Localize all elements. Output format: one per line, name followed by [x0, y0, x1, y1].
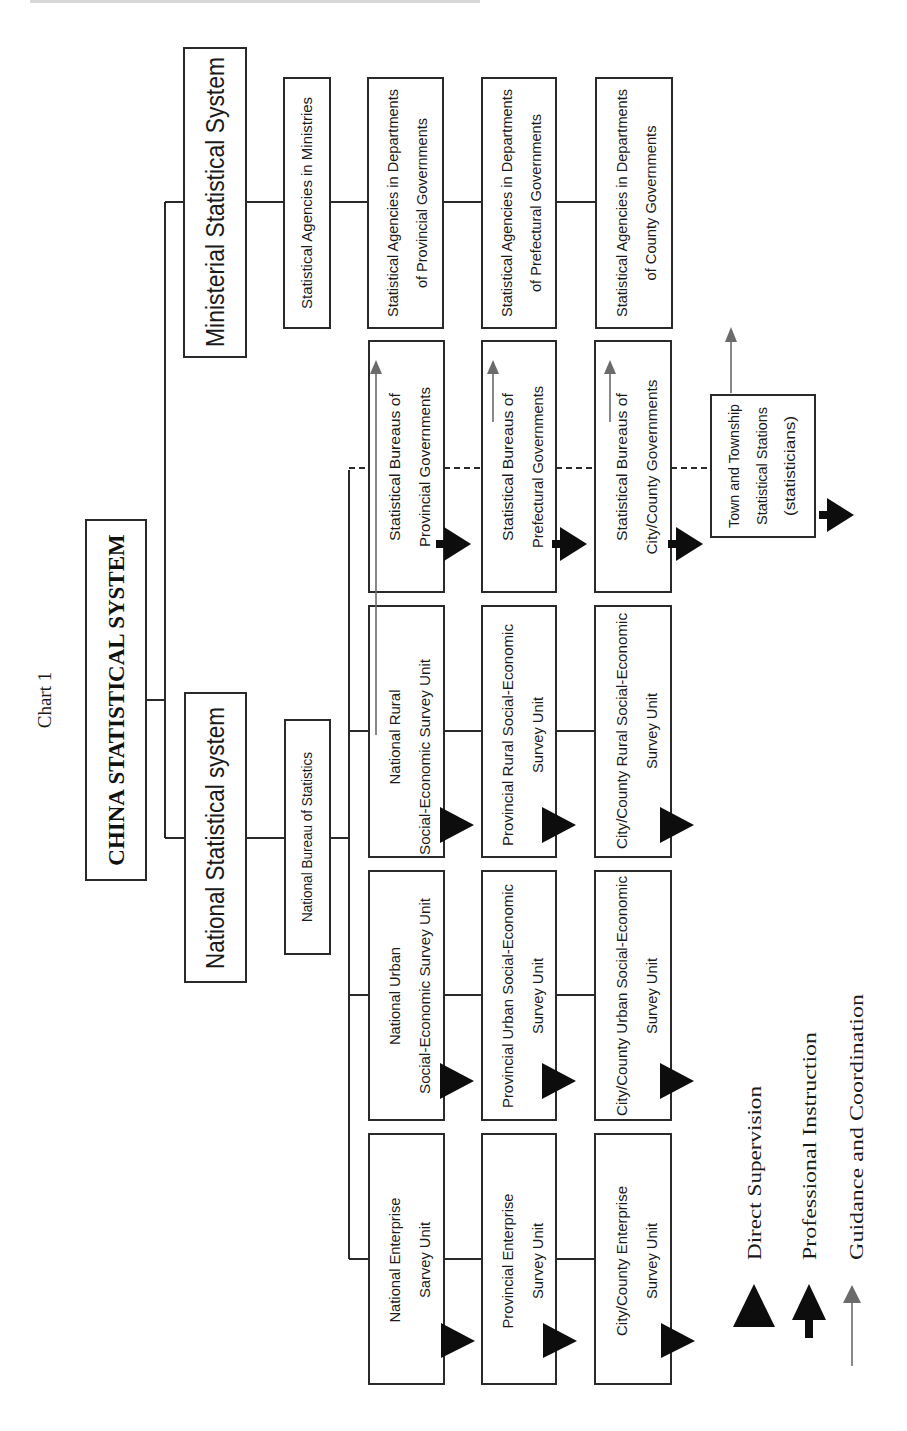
- root-label: CHINA STATISTICAL SYSTEM: [104, 534, 129, 866]
- city-county-urban-node[interactable]: City/County Urban Social-Economic Survey…: [595, 871, 671, 1120]
- city-county-enterprise-label-1: City/County Enterprise: [613, 1186, 630, 1336]
- prefectural-agencies-node[interactable]: Statistical Agencies in Departments of P…: [482, 78, 556, 328]
- legend-item-direct-supervision: Direct Supervision: [733, 1085, 775, 1327]
- provincial-urban-label-2: Survey Unit: [529, 957, 546, 1034]
- solid-triangle-icon: [440, 1063, 474, 1099]
- thin-arrow-icon: [843, 1285, 861, 1366]
- national-rural-label-2: Social-Economic Survey Unit: [416, 658, 433, 855]
- county-agencies-label-2: of County Governments: [643, 126, 659, 281]
- city-county-enterprise-label-2: Survey Unit: [643, 1222, 660, 1299]
- provincial-enterprise-label-1: Provincial Enterprise: [499, 1194, 516, 1329]
- legend-item-guidance: Guidance and Coordination: [843, 993, 867, 1366]
- provincial-rural-label-1: Provincial Rural Social-Economic: [499, 624, 516, 846]
- legend-label: Guidance and Coordination: [846, 993, 867, 1260]
- thin-arrow-icon: [725, 327, 737, 393]
- provincial-agencies-label-2: of Provincial Governments: [414, 118, 430, 288]
- ministry-agencies-node[interactable]: Statistical Agencies in Ministries: [284, 78, 330, 328]
- org-chart: Chart 1 C: [0, 0, 907, 1431]
- prefectural-bureau-label-2: Prefectural Governments: [529, 386, 546, 548]
- city-county-urban-label-1: City/County Urban Social-Economic: [613, 876, 630, 1116]
- solid-triangle-icon: [440, 807, 474, 843]
- provincial-urban-label-1: Provincial Urban Social-Economic: [499, 884, 516, 1108]
- solid-triangle-icon: [441, 1323, 475, 1358]
- ministry-agencies-label: Statistical Agencies in Ministries: [299, 97, 315, 309]
- city-county-bureau-label-1: Statistical Bureaus of: [613, 392, 630, 541]
- national-enterprise-label-2: Sarvey Unit: [416, 1221, 433, 1298]
- root-node[interactable]: CHINA STATISTICAL SYSTEM: [86, 520, 146, 880]
- provincial-rural-label-2: Survey Unit: [529, 696, 546, 773]
- city-county-enterprise-node[interactable]: City/County Enterprise Survey Unit: [595, 1134, 671, 1384]
- provincial-bureau-label-1: Statistical Bureaus of: [386, 392, 403, 541]
- prefectural-agencies-label-1: Statistical Agencies in Departments: [499, 89, 515, 317]
- national-system-node[interactable]: National Statistical system: [185, 693, 246, 982]
- provincial-agencies-node[interactable]: Statistical Agencies in Departments of P…: [368, 78, 443, 328]
- thick-arrow-icon: [552, 527, 587, 561]
- provincial-bureau-label-2: Provincial Governments: [416, 387, 433, 547]
- city-county-rural-node[interactable]: City/County Rural Social-Economic Survey…: [595, 606, 671, 857]
- city-county-urban-label-2: Survey Unit: [643, 957, 660, 1034]
- thick-arrow-icon: [792, 1284, 826, 1338]
- solid-triangle-icon: [660, 807, 694, 843]
- national-rural-label-1: National Rural: [386, 690, 403, 785]
- chart-label: Chart 1: [34, 672, 55, 728]
- solid-triangle-icon: [660, 1063, 694, 1099]
- town-label-1: Town and Township: [726, 404, 742, 528]
- city-county-bureau-label-2: City/County Governments: [643, 380, 660, 555]
- national-rural-node[interactable]: National Rural Social-Economic Survey Un…: [369, 606, 444, 857]
- solid-triangle-icon: [661, 1323, 695, 1358]
- national-system-label: National Statistical system: [201, 707, 229, 969]
- legend: Direct Supervision Professional Instruct…: [733, 993, 867, 1366]
- legend-label: Professional Instruction: [799, 1031, 820, 1260]
- provincial-bureau-node[interactable]: Statistical Bureaus of Provincial Govern…: [369, 341, 444, 592]
- national-urban-label-1: National Urban: [386, 947, 403, 1045]
- county-agencies-node[interactable]: Statistical Agencies in Departments of C…: [596, 78, 672, 328]
- provincial-enterprise-label-2: Survey Unit: [529, 1222, 546, 1299]
- town-label-2: Statistical Stations: [754, 407, 770, 525]
- cutoff-text-strip: [30, 0, 480, 3]
- legend-item-professional-instruction: Professional Instruction: [792, 1031, 826, 1338]
- provincial-agencies-label-1: Statistical Agencies in Departments: [385, 89, 401, 317]
- solid-triangle-icon: [542, 807, 576, 843]
- solid-triangle-icon: [733, 1284, 775, 1327]
- prefectural-bureau-label-1: Statistical Bureaus of: [499, 392, 516, 541]
- county-agencies-label-1: Statistical Agencies in Departments: [614, 89, 630, 317]
- town-label-3: (statisticians): [782, 416, 798, 516]
- city-county-rural-label-1: City/County Rural Social-Economic: [613, 613, 630, 849]
- ministerial-system-label: Ministerial Statistical System: [201, 57, 229, 347]
- nbs-node[interactable]: National Bureau of Statistics: [285, 720, 330, 954]
- ministerial-system-node[interactable]: Ministerial Statistical System: [184, 48, 246, 357]
- national-enterprise-node[interactable]: National Enterprise Sarvey Unit: [369, 1134, 444, 1384]
- town-stations-node[interactable]: Town and Township Statistical Stations (…: [711, 395, 815, 537]
- legend-label: Direct Supervision: [744, 1085, 765, 1260]
- national-urban-node[interactable]: National Urban Social-Economic Survey Un…: [369, 871, 444, 1120]
- solid-triangle-icon: [543, 1323, 577, 1358]
- solid-triangle-icon: [542, 1063, 576, 1099]
- thick-arrow-icon: [819, 498, 854, 532]
- national-urban-label-2: Social-Economic Survey Unit: [416, 897, 433, 1094]
- national-enterprise-label-1: National Enterprise: [386, 1198, 403, 1323]
- prefectural-agencies-label-2: of Prefectural Governments: [528, 114, 544, 292]
- city-county-rural-label-2: Survey Unit: [643, 692, 660, 769]
- city-county-bureau-node[interactable]: Statistical Bureaus of City/County Gover…: [595, 341, 671, 592]
- nbs-label: National Bureau of Statistics: [299, 752, 315, 922]
- thick-arrow-icon: [668, 527, 703, 561]
